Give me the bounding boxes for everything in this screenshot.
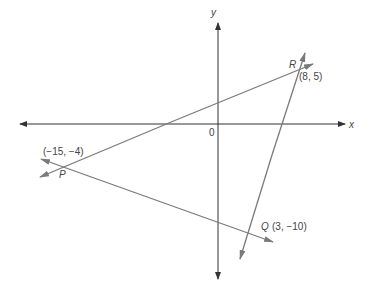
y-axis-label: y [210,7,217,18]
origin-label: 0 [209,127,215,138]
point-p-name: P [59,169,66,180]
point-r-name: R [289,59,296,70]
line-pr [40,64,313,177]
x-axis-label: x [348,119,355,130]
point-p-coords: (−15, −4) [43,146,84,157]
coordinate-plane: y x 0 R (8, 5) (−15, −4) P Q (3, −10) [0,0,370,297]
line-pq [41,159,273,242]
point-q-coords: (3, −10) [272,221,307,232]
point-q-name: Q [261,221,269,232]
point-r-coords: (8, 5) [299,71,322,82]
